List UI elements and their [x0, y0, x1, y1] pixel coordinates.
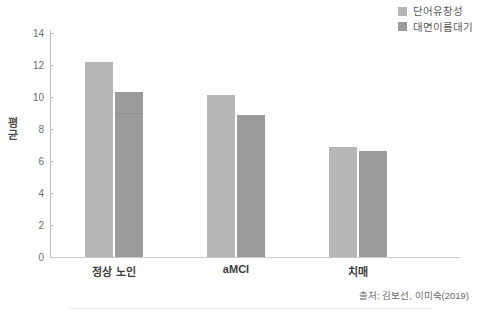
x-axis-line: [50, 257, 460, 258]
x-axis-label-normal-elderly: 정상 노인: [92, 263, 135, 279]
y-tick-mark: [50, 65, 54, 66]
y-tick-label-0: 0: [14, 253, 44, 263]
y-tick-label-2: 2: [14, 221, 44, 231]
y-tick-label-6: 6: [14, 157, 44, 167]
plot-area: 평 균 14 12 10 8 6 4 2 0: [0, 0, 481, 314]
x-axis-label-amci: aMCI: [223, 263, 249, 275]
y-tick-label-12: 12: [14, 61, 44, 71]
y-tick-mark: [50, 257, 54, 258]
y-tick-mark: [50, 193, 54, 194]
y-tick-label-14: 14: [14, 29, 44, 39]
y-tick-label-10: 10: [14, 93, 44, 103]
y-tick-label-8: 8: [14, 125, 44, 135]
bar-confrontation-naming-dementia: [359, 151, 387, 257]
x-axis-label-dementia: 치매: [348, 263, 368, 279]
source-note: 출처: 김보선, 이미숙(2019): [359, 288, 469, 302]
y-tick-label-4: 4: [14, 189, 44, 199]
bar-word-fluency-amci: [207, 95, 235, 257]
bottom-divider: [70, 308, 433, 309]
chart-figure: 단어유창성 대면이름대기 평 균 14 12 10 8 6: [0, 0, 481, 314]
y-tick-mark: [50, 33, 54, 34]
y-tick-mark: [50, 225, 54, 226]
bar-word-fluency-dementia: [329, 147, 357, 257]
y-tick-mark: [50, 129, 54, 130]
bar-inner-gridline: [115, 113, 143, 114]
bar-word-fluency-normal: [85, 62, 113, 257]
bar-confrontation-naming-amci: [237, 115, 265, 257]
y-tick-mark: [50, 161, 54, 162]
bar-confrontation-naming-normal: [115, 92, 143, 257]
y-tick-mark: [50, 97, 54, 98]
